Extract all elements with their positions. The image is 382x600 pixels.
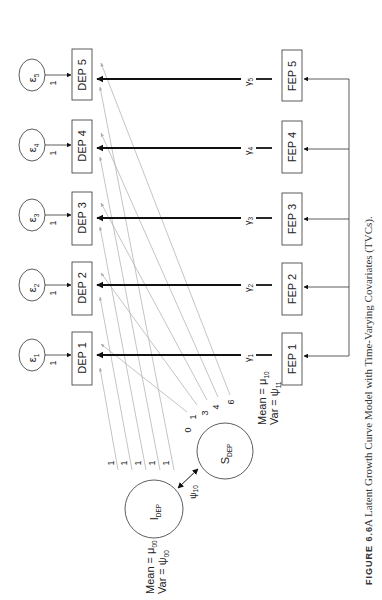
residual-epsilon-2: ε2 1 [19, 269, 71, 301]
intercept-factor-node: IDEP Mean = μ00 Var = ψ00 [125, 480, 183, 594]
figure-title: A Latent Growth Curve Model with Time-Va… [362, 216, 375, 527]
svg-text:DEP 1: DEP 1 [76, 342, 88, 374]
svg-text:γ1: γ1 [243, 354, 254, 363]
svg-text:4: 4 [211, 404, 221, 409]
svg-text:3: 3 [200, 410, 210, 415]
intercept-loading-labels: 1 1 1 1 1 [106, 460, 171, 465]
svg-text:1: 1 [48, 220, 58, 225]
svg-text:FEP 1: FEP 1 [286, 344, 298, 374]
dep-box-1: DEP 1 [72, 332, 92, 385]
fep-box-4: FEP 4 [282, 121, 302, 173]
fep-box-2: FEP 2 [282, 263, 302, 315]
residual-epsilon-4: ε4 1 [19, 129, 71, 161]
svg-text:γ4: γ4 [243, 147, 254, 156]
svg-text:Var = ψ11: Var = ψ11 [268, 381, 282, 425]
svg-text:FEP 5: FEP 5 [286, 61, 298, 91]
svg-text:DEP 2: DEP 2 [76, 272, 88, 304]
svg-text:ε5: ε5 [26, 73, 40, 82]
svg-text:γ2: γ2 [243, 284, 254, 293]
svg-text:ε1: ε1 [26, 353, 40, 362]
svg-text:ψ10: ψ10 [188, 485, 199, 499]
svg-text:FEP 4: FEP 4 [286, 132, 298, 162]
svg-text:DEP 3: DEP 3 [76, 202, 88, 234]
svg-text:1: 1 [48, 80, 58, 85]
svg-text:1: 1 [119, 460, 129, 465]
svg-text:1: 1 [188, 414, 198, 419]
svg-text:1: 1 [147, 460, 157, 465]
residual-epsilon-1: ε1 1 [19, 339, 71, 371]
svg-text:1: 1 [48, 150, 58, 155]
svg-text:ε4: ε4 [26, 143, 40, 152]
svg-text:6: 6 [226, 399, 236, 404]
dep-box-2: DEP 2 [72, 262, 92, 315]
dep-box-4: DEP 4 [72, 120, 92, 173]
svg-text:0: 0 [183, 427, 193, 432]
svg-text:FEP 2: FEP 2 [286, 274, 298, 304]
svg-text:1: 1 [48, 290, 58, 295]
gamma-labels: γ1 γ2 γ3 γ4 γ5 [243, 78, 254, 363]
dep-box-5: DEP 5 [72, 49, 92, 100]
fep-box-5: FEP 5 [282, 50, 302, 101]
svg-text:DEP 5: DEP 5 [76, 59, 88, 91]
figure-label: FIGURE 6.6 [364, 526, 374, 585]
svg-text:1: 1 [48, 360, 58, 365]
residual-epsilon-3: ε3 1 [19, 199, 71, 231]
lgc-tvc-diagram: ε1 1 ε2 1 ε3 1 ε4 1 ε5 1 DEP 1 DEP 2 DEP… [0, 0, 382, 600]
svg-text:Var = ψ00: Var = ψ00 [156, 550, 170, 594]
intercept-loading-paths [100, 87, 174, 470]
slope-factor-node: SDEP Mean = μ10 Var = ψ11 [197, 371, 282, 479]
covariance-path: ψ10 [178, 469, 199, 499]
figure-caption: FIGURE 6.6 A Latent Growth Curve Model w… [362, 216, 375, 585]
fep-box-3: FEP 3 [282, 193, 302, 245]
dep-box-3: DEP 3 [72, 192, 92, 245]
svg-text:γ3: γ3 [243, 217, 254, 226]
svg-text:ε3: ε3 [26, 213, 40, 222]
svg-text:ε2: ε2 [26, 283, 40, 292]
svg-text:DEP 4: DEP 4 [76, 130, 88, 162]
fep-box-1: FEP 1 [282, 333, 302, 385]
svg-text:1: 1 [161, 460, 171, 465]
svg-text:FEP 3: FEP 3 [286, 204, 298, 234]
covariate-bracket [304, 79, 349, 356]
slope-loading-paths [101, 63, 230, 412]
svg-text:1: 1 [106, 460, 116, 465]
residual-epsilon-5: ε5 1 [19, 59, 71, 91]
svg-text:γ5: γ5 [243, 78, 254, 87]
svg-text:1: 1 [133, 460, 143, 465]
